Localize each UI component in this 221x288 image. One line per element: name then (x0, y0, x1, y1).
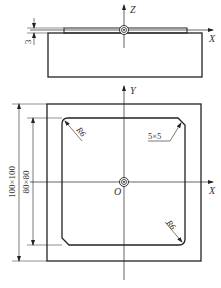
outer-dimension-text: 100×100 (7, 165, 17, 198)
top-x-label: X (208, 185, 216, 196)
thickness-dimension-text: 3 (23, 39, 33, 44)
radius-leader-top-left: R6 (65, 121, 89, 141)
thickness-dimension: 3 (23, 18, 64, 45)
top-view: Y X O R6 R6 5×5 100×100 (7, 85, 216, 280)
inner-dimension-text: 80×80 (21, 170, 31, 194)
origin-label: O (114, 186, 121, 197)
front-x-label: X (208, 33, 216, 44)
technical-drawing: Z X 3 Y X O R6 (0, 0, 221, 288)
radius-label-top-left: R6 (74, 124, 89, 139)
inner-dimension: 80×80 (21, 118, 62, 245)
top-y-label: Y (130, 85, 137, 96)
chamfer-label: 5×5 (148, 131, 161, 141)
front-base-block (48, 33, 202, 77)
radius-label-bottom-right: R6 (164, 217, 179, 232)
front-origin-symbol (120, 26, 129, 35)
front-z-label: Z (130, 4, 136, 15)
radius-leader-bottom-right: R6 (164, 217, 182, 242)
chamfer-leader: 5×5 (148, 123, 181, 141)
front-view: Z X 3 (23, 4, 216, 77)
